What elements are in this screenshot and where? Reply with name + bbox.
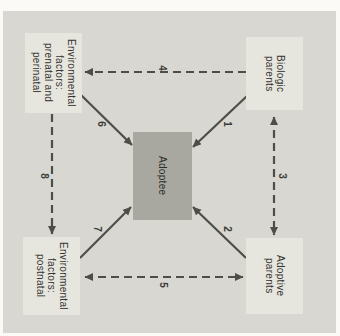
arrow-6-prenatal-to-adoptee	[81, 95, 132, 145]
arrow-1-biologic-to-adoptee	[193, 96, 247, 147]
figure-page: Environmental factors: prenatal and peri…	[0, 0, 340, 336]
arrow-label-1: 1	[222, 121, 233, 127]
box-adoptee: Adoptee	[133, 132, 192, 220]
box-environmental-postnatal: Environmental factors: postnatal	[23, 237, 80, 315]
box-biologic-parents: Biologic parents	[246, 37, 303, 110]
box-adoptee-label: Adoptee	[157, 156, 169, 195]
arrow-2-adoptive-to-adoptee	[193, 207, 246, 258]
arrow-label-3: 3	[277, 173, 288, 179]
arrow-label-8: 8	[39, 173, 50, 179]
arrow-label-7: 7	[92, 226, 103, 232]
box-environmental-postnatal-label: Environmental factors: postnatal	[34, 242, 69, 310]
arrow-label-5: 5	[158, 282, 169, 288]
arrow-7-postnatal-to-adoptee	[80, 207, 131, 258]
arrow-label-2: 2	[222, 226, 233, 232]
box-environmental-prenatal-label: Environmental factors: prenatal and peri…	[30, 39, 77, 107]
arrow-label-6: 6	[96, 121, 107, 127]
box-environmental-prenatal: Environmental factors: prenatal and peri…	[25, 33, 82, 113]
box-adoptive-parents: Adoptive parents	[246, 238, 303, 314]
box-biologic-parents-label: Biologic parents	[263, 55, 287, 92]
arrow-label-4: 4	[157, 65, 168, 71]
box-adoptive-parents-label: Adoptive parents	[263, 255, 287, 296]
